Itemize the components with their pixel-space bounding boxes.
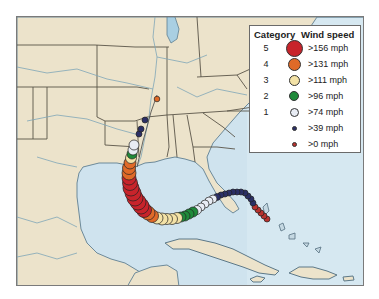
legend-category: 1 bbox=[260, 107, 272, 117]
legend-row-depression: >0 mph bbox=[250, 137, 360, 153]
legend-category: 5 bbox=[260, 43, 272, 53]
depression-marker-icon bbox=[292, 142, 297, 147]
legend-row-tropical-storm: >39 mph bbox=[250, 121, 360, 137]
hurricane-track-map: Category Wind speed 5 >156 mph 4 >131 mp… bbox=[16, 16, 364, 286]
legend-label: >156 mph bbox=[308, 43, 348, 53]
cat5-marker-icon bbox=[286, 40, 303, 57]
legend-header-category: Category bbox=[254, 29, 295, 40]
legend-label: >111 mph bbox=[308, 75, 347, 85]
legend-label: >39 mph bbox=[308, 123, 343, 133]
legend-row-cat5: 5 >156 mph bbox=[250, 41, 360, 57]
legend-row-cat2: 2 >96 mph bbox=[250, 89, 360, 105]
tropical-storm-marker-icon bbox=[292, 126, 297, 131]
cat2-marker-icon bbox=[289, 91, 299, 101]
legend-category: 3 bbox=[260, 75, 272, 85]
legend-label: >131 mph bbox=[308, 59, 348, 69]
legend-row-cat4: 4 >131 mph bbox=[250, 57, 360, 73]
legend-category: 2 bbox=[260, 91, 272, 101]
legend-label: >96 mph bbox=[308, 91, 343, 101]
legend-label: >0 mph bbox=[308, 139, 338, 149]
legend-row-cat3: 3 >111 mph bbox=[250, 73, 360, 89]
map-legend: Category Wind speed 5 >156 mph 4 >131 mp… bbox=[249, 25, 361, 153]
puerto-rico bbox=[343, 276, 354, 281]
legend-label: >74 mph bbox=[308, 107, 343, 117]
legend-header-wind-speed: Wind speed bbox=[301, 29, 354, 40]
legend-category: 4 bbox=[260, 59, 272, 69]
legend-row-cat1: 1 >74 mph bbox=[250, 105, 360, 121]
cat1-marker-icon bbox=[290, 108, 299, 117]
cat3-marker-icon bbox=[289, 75, 300, 86]
cat4-marker-icon bbox=[288, 58, 301, 71]
